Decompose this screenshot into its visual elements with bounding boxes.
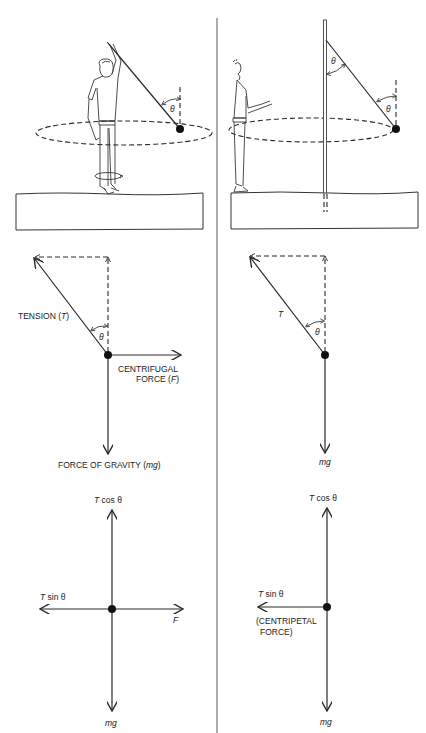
angle-arc-ball <box>378 96 395 101</box>
angle-arc <box>307 321 323 326</box>
f-label: F <box>173 615 179 625</box>
right-force-diagram: θ T mg <box>250 256 331 467</box>
mass-point <box>321 351 329 359</box>
angle-arc <box>92 326 106 330</box>
theta-label: θ <box>99 332 104 342</box>
t-sin-label: T sin θ <box>258 589 284 599</box>
theta-label: θ <box>170 104 175 114</box>
observer-person-icon <box>233 59 272 192</box>
left-component-diagram: T cos θ T sin θ F mg <box>40 495 183 728</box>
t-cos-label: T cos θ <box>309 493 337 503</box>
theta-label-bottom: θ <box>386 104 391 114</box>
centrifugal-label-line1: CENTRIFUGAL <box>118 364 178 374</box>
angle-arc-pole <box>328 65 344 74</box>
string-left <box>108 43 180 129</box>
tension-arrow <box>34 258 108 355</box>
right-component-diagram: T cos θ T sin θ (CENTRIPETAL FORCE) mg <box>256 493 337 727</box>
orbit-ellipse-right <box>229 118 393 142</box>
mass-point <box>323 603 331 611</box>
ball-left <box>176 125 184 133</box>
string-right <box>326 40 396 129</box>
mass-point <box>108 605 116 613</box>
mg-label: mg <box>320 717 332 727</box>
pole <box>324 20 327 193</box>
ball-right <box>392 125 400 133</box>
mg-label: mg <box>105 718 117 728</box>
theta-label: θ <box>315 327 320 337</box>
gravity-label: mg <box>319 457 331 467</box>
gravity-label: FORCE OF GRAVITY (mg) <box>58 460 161 470</box>
theta-label-top: θ <box>331 56 336 66</box>
diagram-canvas: θ θ θ <box>0 0 426 733</box>
person-swinging-icon <box>88 42 123 194</box>
mass-point <box>104 351 112 359</box>
t-sin-label: T sin θ <box>40 592 66 602</box>
ground-block-left <box>16 193 203 230</box>
tension-label: TENSION (T) <box>18 311 69 321</box>
left-scene: θ <box>16 42 212 230</box>
left-force-diagram: θ TENSION (T) CENTRIFUGAL FORCE (F) FORC… <box>18 257 181 470</box>
orbit-ellipse-left <box>36 121 212 145</box>
right-scene: θ θ <box>229 20 418 229</box>
t-cos-label: T cos θ <box>94 495 122 505</box>
centripetal-note-line2: FORCE) <box>260 627 293 637</box>
tension-arrow <box>250 257 325 355</box>
tension-label: T <box>278 309 284 319</box>
centripetal-note-line1: (CENTRIPETAL <box>256 616 317 626</box>
centrifugal-label-line2: FORCE (F) <box>136 374 179 384</box>
